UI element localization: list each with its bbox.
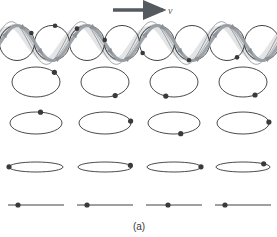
particle-marker: [222, 202, 227, 207]
orbit-depth-3-orbits-1: [78, 162, 133, 172]
particle-marker: [6, 164, 11, 169]
figure-canvas: v (a): [0, 0, 277, 237]
surface-particle-marker-5: [187, 58, 192, 63]
particle-marker: [198, 164, 203, 169]
orbit-depth-4-lines-3: [215, 202, 271, 207]
particle-marker: [140, 51, 145, 56]
orbit-depth-2-orbits-1: [79, 112, 133, 134]
particle-marker: [15, 202, 20, 207]
orbit-ellipse: [9, 162, 63, 172]
particle-marker: [128, 118, 133, 123]
orbit-row-depth-2-orbits: [10, 110, 272, 137]
particle-marker: [163, 94, 168, 99]
surface-particle-marker-6: [235, 55, 240, 60]
orbit-depth-3-orbits-0: [6, 162, 63, 172]
particle-marker: [235, 55, 240, 60]
velocity-label: v: [168, 5, 173, 16]
orbit-depth-3-orbits-3: [216, 161, 270, 172]
particle-marker: [113, 93, 118, 98]
particle-marker: [266, 119, 271, 124]
orbit-ellipse: [78, 162, 132, 172]
orbit-depth-2-orbits-3: [217, 112, 272, 134]
particle-marker: [75, 26, 80, 31]
surface-particle-marker-0: [29, 31, 34, 36]
particle-marker: [52, 70, 57, 75]
orbit-ellipse: [10, 112, 62, 134]
surface-particle-marker-2: [75, 26, 80, 31]
orbit-depth-2-orbits-0: [10, 110, 62, 134]
orbit-row-depth-1-orbits: [12, 67, 267, 99]
orbit-depth-1-orbits-3: [219, 67, 267, 98]
orbit-ellipse: [147, 162, 201, 172]
orbit-depth-1-orbits-1: [81, 67, 129, 98]
wave-particle-motion-figure: v (a): [0, 0, 277, 237]
particle-marker: [261, 161, 266, 166]
surface-particle-marker-3: [102, 38, 107, 43]
orbit-depth-4-lines-2: [146, 202, 202, 207]
orbit-row-depth-4-lines: [8, 202, 271, 207]
surface-particle-marker-4: [140, 51, 145, 56]
particle-marker: [165, 202, 170, 207]
orbit-depth-4-lines-1: [77, 202, 133, 207]
orbit-ellipse: [148, 112, 200, 134]
orbit-depth-1-orbits-2: [150, 67, 198, 99]
particle-marker: [29, 31, 34, 36]
orbit-ellipse: [219, 67, 267, 97]
figure-caption: (a): [133, 221, 145, 232]
orbit-row-depth-3-orbits: [6, 161, 270, 172]
particle-marker: [102, 38, 107, 43]
particle-marker: [53, 23, 58, 28]
orbit-depth-1-orbits-0: [12, 67, 60, 97]
orbit-ellipse: [217, 112, 269, 134]
orbit-depth-3-orbits-2: [147, 162, 204, 172]
particle-marker: [38, 110, 43, 115]
particle-marker: [84, 202, 89, 207]
surface-particle-marker-1: [53, 23, 58, 28]
orbit-ellipse: [81, 67, 129, 97]
orbit-ellipse: [79, 112, 131, 134]
particle-marker: [252, 92, 257, 97]
orbit-depth-4-lines-0: [8, 202, 64, 207]
orbit-ellipse: [150, 67, 198, 97]
particle-marker: [187, 58, 192, 63]
orbit-depth-2-orbits-2: [148, 112, 200, 136]
velocity-arrow-group: v: [113, 5, 173, 16]
particle-marker: [178, 131, 183, 136]
particle-marker: [128, 163, 133, 168]
